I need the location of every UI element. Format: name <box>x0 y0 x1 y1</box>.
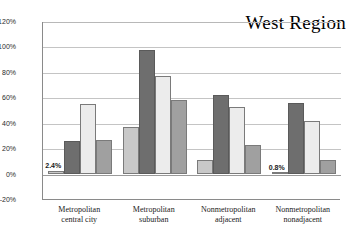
bar-group <box>43 21 118 199</box>
plot-area <box>42 22 340 200</box>
bar-group <box>267 21 342 199</box>
x-axis-label-line: Metropolitan <box>133 205 175 214</box>
y-axis-tick-label: 80% <box>0 69 16 77</box>
bar[interactable] <box>304 121 320 174</box>
bar[interactable] <box>64 141 80 174</box>
y-axis-tick-label: 0% <box>0 171 16 179</box>
y-axis-tick-label: 40% <box>0 120 16 128</box>
bar[interactable] <box>197 160 213 173</box>
x-axis-label-line: suburban <box>111 215 197 225</box>
x-axis-category-label: Metropolitansuburban <box>111 205 197 225</box>
bar[interactable] <box>229 107 245 173</box>
bar[interactable] <box>48 171 64 174</box>
bar[interactable] <box>171 100 187 174</box>
bar[interactable] <box>213 95 229 174</box>
x-axis-category-label: Metropolitancentral city <box>36 205 122 225</box>
y-axis-tick-label: 20% <box>0 145 16 153</box>
y-axis-tick-label: 100% <box>0 43 16 51</box>
bar[interactable] <box>272 172 288 174</box>
bar[interactable] <box>155 76 171 174</box>
y-axis-tick-label: -20% <box>0 196 16 204</box>
bar[interactable] <box>96 140 112 174</box>
x-axis-label-line: Nonmetropolitan <box>201 205 256 214</box>
bar[interactable] <box>245 145 261 174</box>
x-axis-label-line: central city <box>36 215 122 225</box>
bar-value-label: 0.8% <box>269 164 285 172</box>
chart-container: West Region 120%100%80%60%40%20%0%-20% M… <box>0 0 360 250</box>
x-axis-label-line: adjacent <box>185 215 271 225</box>
bar-group <box>192 21 267 199</box>
y-axis-tick-label: 60% <box>0 94 16 102</box>
bar[interactable] <box>80 104 96 174</box>
y-axis-tick-label: 120% <box>0 18 16 26</box>
x-axis-label-line: Metropolitan <box>58 205 100 214</box>
x-axis-label-line: nonadjacent <box>260 215 346 225</box>
x-axis-category-label: Nonmetropolitannonadjacent <box>260 205 346 225</box>
bar[interactable] <box>288 103 304 174</box>
bar-group <box>118 21 193 199</box>
x-axis-label-line: Nonmetropolitan <box>275 205 330 214</box>
bar[interactable] <box>139 50 155 174</box>
bar[interactable] <box>123 127 139 173</box>
bar-value-label: 2.4% <box>45 162 61 170</box>
x-axis-category-label: Nonmetropolitanadjacent <box>185 205 271 225</box>
bar[interactable] <box>320 160 336 174</box>
